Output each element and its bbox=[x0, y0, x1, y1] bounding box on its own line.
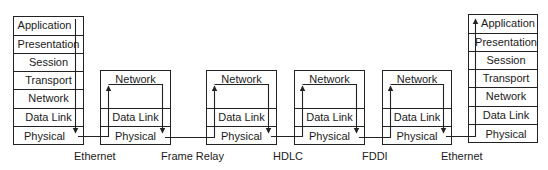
down-arrow-icon bbox=[303, 85, 357, 134]
up-arrow-icon bbox=[359, 86, 391, 138]
data-path bbox=[0, 0, 548, 170]
down-arrow-icon bbox=[215, 85, 269, 134]
up-arrow-icon bbox=[165, 86, 215, 138]
link-label-frame-relay: Frame Relay bbox=[161, 150, 224, 162]
up-arrow-icon bbox=[271, 86, 303, 137]
link-label-fddi: FDDI bbox=[362, 150, 388, 162]
down-arrow-icon bbox=[391, 85, 444, 134]
link-label-hdlc: HDLC bbox=[273, 150, 303, 162]
link-label-ethernet-1: Ethernet bbox=[74, 150, 116, 162]
down-arrow-icon bbox=[109, 85, 163, 134]
up-arrow-icon bbox=[78, 86, 109, 137]
link-label-ethernet-2: Ethernet bbox=[441, 150, 483, 162]
up-arrow-icon bbox=[446, 19, 476, 137]
